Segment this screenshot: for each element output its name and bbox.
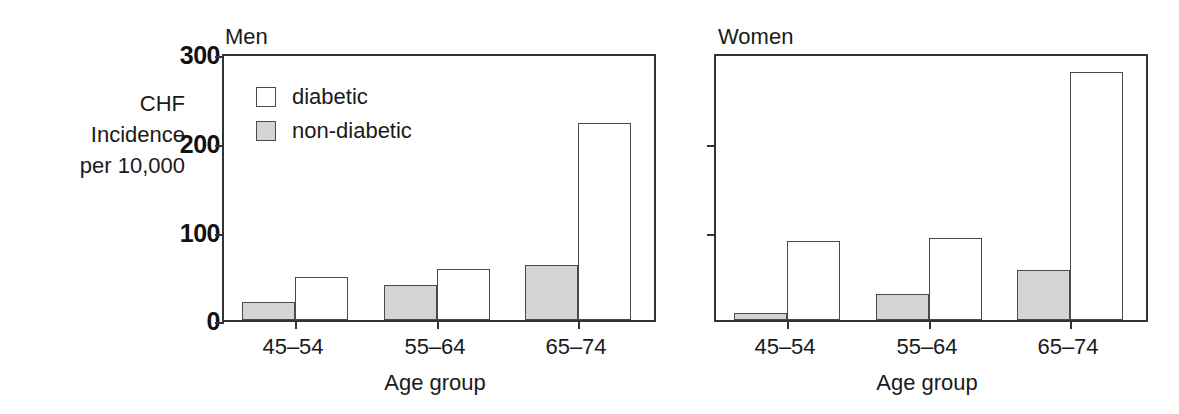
legend-swatch-non-diabetic-icon: [256, 121, 276, 141]
legend-label-diabetic: diabetic: [292, 84, 368, 110]
bar-group-women: [716, 56, 1146, 320]
bar-women-45-54-non-diabetic: [734, 313, 787, 320]
x-tick-men-65-74: [578, 320, 580, 329]
plot-area-men: diabetic non-diabetic: [222, 54, 656, 322]
y-tick-label-200: 200: [180, 130, 220, 159]
panel-title-women: Women: [718, 24, 793, 50]
chart-figure: CHF Incidence per 10,000 300 200 100 0 M…: [0, 0, 1179, 414]
y-tick-men-100: [215, 234, 224, 236]
x-axis-title-men: Age group: [384, 370, 486, 396]
bar-women-45-54-diabetic: [787, 241, 840, 320]
bar-women-65-74-diabetic: [1070, 72, 1123, 320]
bar-women-65-74-non-diabetic: [1017, 270, 1070, 320]
legend-item-diabetic: diabetic: [256, 80, 412, 114]
y-tick-women-200: [707, 145, 716, 147]
y-tick-men-300: [215, 56, 224, 58]
y-tick-label-300: 300: [180, 41, 220, 70]
bar-men-55-64-diabetic: [437, 269, 490, 320]
y-tick-label-group: 300 200 100 0: [150, 0, 220, 414]
x-category-men-55-64: 55–64: [404, 334, 465, 360]
x-tick-men-55-64: [437, 320, 439, 329]
x-category-women-55-64: 55–64: [896, 334, 957, 360]
y-tick-label-100: 100: [180, 219, 220, 248]
x-category-men-65-74: 65–74: [545, 334, 606, 360]
y-tick-label-0: 0: [207, 307, 220, 336]
x-tick-men-45-54: [295, 320, 297, 329]
bar-men-55-64-non-diabetic: [384, 285, 437, 320]
legend-swatch-diabetic-icon: [256, 87, 276, 107]
bar-men-45-54-diabetic: [295, 277, 348, 320]
legend-label-non-diabetic: non-diabetic: [292, 118, 412, 144]
x-category-men-45-54: 45–54: [262, 334, 323, 360]
bar-men-65-74-non-diabetic: [525, 265, 578, 320]
bar-men-65-74-diabetic: [578, 123, 631, 320]
legend-men: diabetic non-diabetic: [256, 80, 412, 148]
bar-men-45-54-non-diabetic: [242, 302, 295, 320]
x-category-women-65-74: 65–74: [1037, 334, 1098, 360]
x-tick-women-45-54: [787, 320, 789, 329]
panel-title-men: Men: [225, 24, 268, 50]
x-tick-women-55-64: [929, 320, 931, 329]
x-category-women-45-54: 45–54: [754, 334, 815, 360]
y-tick-men-0: [215, 322, 224, 324]
y-tick-women-100: [707, 234, 716, 236]
bar-women-55-64-non-diabetic: [876, 294, 929, 320]
x-tick-women-65-74: [1070, 320, 1072, 329]
bar-women-55-64-diabetic: [929, 238, 982, 320]
y-tick-men-200: [215, 145, 224, 147]
x-axis-title-women: Age group: [876, 370, 978, 396]
legend-item-non-diabetic: non-diabetic: [256, 114, 412, 148]
plot-area-women: [714, 54, 1148, 322]
